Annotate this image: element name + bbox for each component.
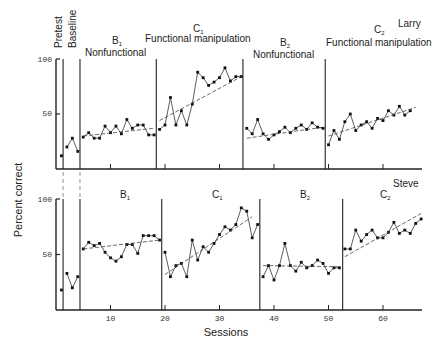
data-point xyxy=(245,127,248,130)
data-point xyxy=(322,127,325,130)
data-point xyxy=(251,132,254,135)
data-point xyxy=(115,260,118,263)
data-point xyxy=(382,236,385,239)
data-point xyxy=(104,125,107,128)
data-point xyxy=(224,225,227,228)
data-point xyxy=(245,210,248,213)
data-point xyxy=(207,84,210,87)
top-ytick-50: 50 xyxy=(42,109,52,118)
multiple-baseline-chart: Percent correct Sessions Pretest Baselin… xyxy=(0,0,445,352)
data-point xyxy=(87,131,90,134)
data-point xyxy=(376,117,379,120)
bottom-b1-label: B1 xyxy=(120,189,131,201)
data-point xyxy=(273,279,276,282)
data-point xyxy=(191,239,194,242)
data-line xyxy=(165,208,258,277)
data-line xyxy=(83,120,154,139)
subject-steve: Steve xyxy=(393,178,419,189)
data-point xyxy=(76,275,79,278)
data-point xyxy=(234,223,237,226)
top-ytick-100: 100 xyxy=(38,55,53,64)
data-point xyxy=(284,242,287,245)
data-point xyxy=(278,130,281,133)
c2-desc: Functional manipulation xyxy=(326,37,432,48)
baseline-label: Baseline xyxy=(67,9,78,48)
data-point xyxy=(196,259,199,262)
x-tick-label: 10 xyxy=(106,314,116,323)
data-point xyxy=(185,124,188,127)
data-point xyxy=(180,109,183,112)
data-point xyxy=(164,124,167,127)
data-point xyxy=(169,275,172,278)
data-point xyxy=(256,223,259,226)
data-point xyxy=(316,259,319,262)
data-point xyxy=(93,137,96,140)
data-point xyxy=(98,137,101,140)
trend-line xyxy=(165,217,252,275)
data-point xyxy=(153,234,156,237)
data-point xyxy=(218,76,221,79)
x-tick-label: 60 xyxy=(378,314,388,323)
data-point xyxy=(240,206,243,209)
data-point xyxy=(234,75,237,78)
bottom-c1-label: C1 xyxy=(212,189,223,201)
data-point xyxy=(120,255,123,258)
data-point xyxy=(60,289,63,292)
x-axis-label: Sessions xyxy=(204,326,249,338)
data-line xyxy=(67,273,78,287)
b2-desc: Nonfunctional xyxy=(253,49,314,60)
data-point xyxy=(251,236,254,239)
x-tick-label: 40 xyxy=(269,314,279,323)
trend-line xyxy=(329,107,416,136)
data-point xyxy=(202,76,205,79)
data-point xyxy=(382,119,385,122)
data-point xyxy=(136,252,139,255)
data-point xyxy=(164,251,167,254)
data-point xyxy=(185,275,188,278)
data-point xyxy=(349,113,352,116)
data-point xyxy=(136,124,139,127)
data-point xyxy=(398,232,401,235)
data-point xyxy=(414,222,417,225)
x-tick-label: 30 xyxy=(215,314,225,323)
x-tick-label: 50 xyxy=(324,314,334,323)
data-point xyxy=(387,109,390,112)
data-line xyxy=(67,138,78,151)
data-point xyxy=(66,272,69,275)
data-point xyxy=(300,124,303,127)
data-point xyxy=(409,232,412,235)
b1-label: B1 xyxy=(112,35,123,47)
trend-line xyxy=(345,213,421,256)
data-point xyxy=(327,272,330,275)
top-phase-labels: Pretest Baseline B1 Nonfunctional C1 Fun… xyxy=(53,9,432,60)
data-point xyxy=(71,137,74,140)
bottom-phase-labels: B1 C1 B2 C2 Steve xyxy=(120,178,419,201)
data-point xyxy=(294,127,297,130)
data-point xyxy=(343,120,346,123)
data-point xyxy=(87,241,90,244)
data-point xyxy=(393,221,396,224)
pretest-label: Pretest xyxy=(53,16,64,48)
data-point xyxy=(93,244,96,247)
data-point xyxy=(120,132,123,135)
data-point xyxy=(125,118,128,121)
data-point xyxy=(333,129,336,132)
bottom-b2-label: B2 xyxy=(300,189,311,201)
data-point xyxy=(403,114,406,117)
data-point xyxy=(147,234,150,237)
data-point xyxy=(131,127,134,130)
data-point xyxy=(354,129,357,132)
data-point xyxy=(142,124,145,127)
data-point xyxy=(294,270,297,273)
data-point xyxy=(322,262,325,265)
data-point xyxy=(327,143,330,146)
c2-label: C2 xyxy=(374,24,385,36)
data-point xyxy=(371,127,374,130)
data-point xyxy=(169,96,172,99)
bottom-ytick-100: 100 xyxy=(38,195,53,204)
data-point xyxy=(354,229,357,232)
x-tick-label: 20 xyxy=(160,314,170,323)
plot-layer: 102030405060 xyxy=(56,59,423,323)
data-point xyxy=(371,229,374,232)
data-point xyxy=(262,132,265,135)
